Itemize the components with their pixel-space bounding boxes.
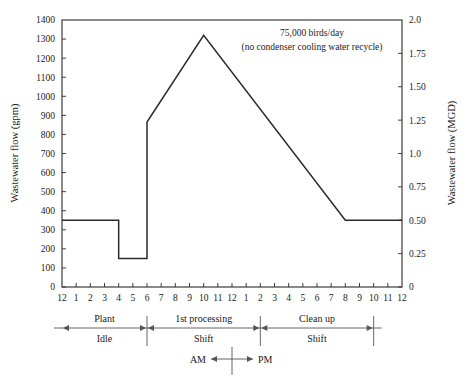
x-tick-label: 6 <box>145 293 150 303</box>
x-tick-label: 12 <box>57 293 67 303</box>
x-tick-label: 7 <box>329 293 334 303</box>
left-tick-label: 300 <box>41 225 56 235</box>
pm-label: PM <box>258 354 273 365</box>
x-tick-label: 12 <box>227 293 237 303</box>
y-axis-title-left: Wastewater flow (gpm) <box>9 103 21 202</box>
left-tick-label: 1200 <box>36 54 55 64</box>
right-tick-label: 1.50 <box>409 82 426 92</box>
am-label: AM <box>190 354 206 365</box>
left-tick-label: 0 <box>50 282 55 292</box>
x-tick-label: 8 <box>343 293 348 303</box>
x-tick-label: 5 <box>300 293 305 303</box>
left-tick-label: 1000 <box>36 92 55 102</box>
x-tick-label: 10 <box>199 293 209 303</box>
right-tick-label: 0.75 <box>409 182 426 192</box>
shift-label-primary: Plant <box>94 313 115 324</box>
shift-label-secondary: Idle <box>97 333 113 344</box>
x-tick-label: 1 <box>244 293 249 303</box>
x-tick-label: 2 <box>88 293 93 303</box>
left-tick-label: 700 <box>41 149 56 159</box>
right-tick-label: 0.50 <box>409 216 426 226</box>
left-tick-label: 600 <box>41 168 56 178</box>
left-tick-label: 1100 <box>36 73 55 83</box>
shift-label-secondary: Shift <box>307 333 327 344</box>
left-tick-label: 800 <box>41 130 56 140</box>
x-tick-label: 2 <box>258 293 263 303</box>
y-axis-title-right: Wastewater flow (MGD) <box>446 100 458 205</box>
x-tick-label: 1 <box>74 293 79 303</box>
left-tick-label: 400 <box>41 206 56 216</box>
x-tick-label: 5 <box>130 293 135 303</box>
shift-label-primary: Clean up <box>299 313 335 324</box>
left-tick-label: 100 <box>41 263 56 273</box>
x-tick-label: 4 <box>116 293 121 303</box>
x-tick-label: 11 <box>213 293 222 303</box>
x-tick-label: 3 <box>102 293 107 303</box>
left-tick-label: 1300 <box>36 34 55 44</box>
x-tick-label: 4 <box>286 293 291 303</box>
x-tick-label: 12 <box>397 293 407 303</box>
annotation-line-2: (no condenser cooling water recycle) <box>242 42 383 53</box>
x-tick-label: 9 <box>187 293 192 303</box>
x-tick-label: 9 <box>357 293 362 303</box>
right-tick-label: 0.25 <box>409 249 426 259</box>
right-tick-label: 2.0 <box>409 15 421 25</box>
left-tick-label: 200 <box>41 244 56 254</box>
right-tick-label: 1.0 <box>409 149 421 159</box>
right-tick-label: 1.25 <box>409 116 426 126</box>
left-tick-label: 900 <box>41 111 56 121</box>
shift-label-primary: 1st processing <box>175 313 232 324</box>
x-tick-label: 10 <box>369 293 379 303</box>
x-tick-label: 7 <box>159 293 164 303</box>
x-tick-label: 11 <box>383 293 392 303</box>
chart-background <box>0 0 471 381</box>
right-tick-label: 1.75 <box>409 49 426 59</box>
left-tick-label: 500 <box>41 187 56 197</box>
shift-label-secondary: Shift <box>194 333 214 344</box>
left-tick-label: 1400 <box>36 15 55 25</box>
right-tick-label: 0 <box>409 282 414 292</box>
x-tick-label: 8 <box>173 293 178 303</box>
annotation-line-1: 75,000 birds/day <box>280 28 344 38</box>
x-tick-label: 6 <box>315 293 320 303</box>
x-tick-label: 3 <box>272 293 277 303</box>
wastewater-flow-chart: 0100200300400500600700800900100011001200… <box>0 0 471 381</box>
